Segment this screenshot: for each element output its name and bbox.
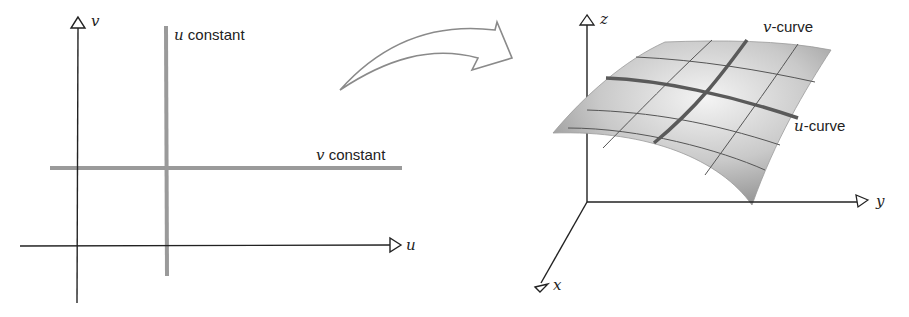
u-axis [20, 245, 390, 246]
mapping-arrow-icon [340, 22, 512, 90]
y-axis-arrowhead-icon [856, 195, 868, 207]
u-axis-label: u [406, 236, 416, 254]
x-axis-arrowhead-icon [535, 284, 548, 292]
parameter-plane: v u u constant v constant [20, 12, 416, 303]
u-axis-arrowhead-icon [390, 238, 401, 252]
v-axis-arrowhead-icon [71, 17, 85, 28]
v-axis-label: v [91, 12, 100, 30]
z-axis-label: z [599, 10, 608, 28]
v-curve-label: v-curve [763, 18, 813, 36]
y-axis-label: y [875, 192, 885, 210]
v-constant-label: v constant [316, 146, 386, 164]
parametric-surface-diagram: v u u constant v constant z [0, 0, 909, 317]
u-curve-label: u-curve [794, 117, 845, 135]
surface-3d: z y x v-curve u-curve [535, 10, 885, 294]
x-axis-label: x [553, 276, 562, 294]
v-axis [77, 28, 78, 303]
u-constant-label: u constant [174, 26, 245, 44]
x-axis [541, 202, 587, 283]
surface-patch [553, 41, 831, 205]
u-constant-line [166, 26, 167, 276]
z-axis-arrowhead-icon [580, 15, 594, 25]
